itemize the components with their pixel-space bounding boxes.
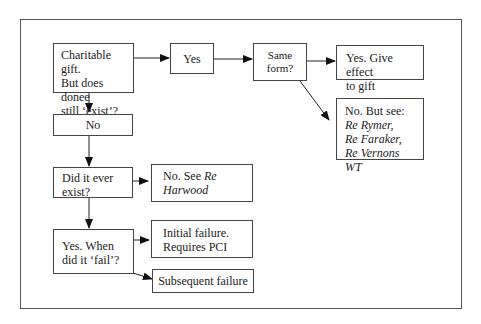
node-same-form-line-1: Same [268,49,292,62]
case-re-rymer: Re Rymer, [345,118,415,132]
case-re-faraker: Re Faraker, [345,132,415,146]
node-ever-exist: Did it ever exist? [53,167,133,198]
node-harwood-line-1: No. See [163,169,204,183]
node-yes: Yes [170,43,214,74]
node-yes-label: Yes [183,52,200,66]
case-re-vernons-wt: Re Vernons WT [345,146,415,174]
node-same-form: Same form? [253,43,307,81]
node-ever-exist-line-1: Did it ever [62,171,124,185]
node-harwood: No. See Re Harwood [151,164,253,202]
node-no: No [53,114,133,136]
node-when-fail: Yes. When did it ‘fail’? [53,229,134,274]
node-subsequent-failure: Subsequent failure [152,269,254,293]
node-give-effect-line-1: Yes. Give effect [346,51,414,79]
node-same-form-line-2: form? [267,62,293,75]
node-initial-failure: Initial failure. Requires PCI [151,220,253,258]
node-give-effect: Yes. Give effect to gift [336,45,424,80]
node-start: Charitable gift. But does donee still ‘e… [53,43,134,93]
node-give-effect-line-2: to gift [346,79,414,93]
case-re: Re [204,169,217,183]
node-when-fail-line-2: did it ‘fail’? [62,253,125,267]
node-start-line-2: But does donee [61,76,126,104]
node-no-label: No [86,118,101,132]
node-initial-failure-line-2: Requires PCI [163,240,241,254]
node-ever-exist-line-2: exist? [62,185,124,199]
node-subsequent-failure-label: Subsequent failure [158,274,248,288]
node-no-but-see: No. But see: Re Rymer, Re Faraker, Re Ve… [336,98,424,160]
node-start-line-1: Charitable gift. [61,48,126,76]
node-no-but-see-line-1: No. But see: [345,104,415,118]
node-when-fail-line-1: Yes. When [62,239,125,253]
node-initial-failure-line-1: Initial failure. [163,226,241,240]
case-harwood: Harwood [163,183,241,197]
